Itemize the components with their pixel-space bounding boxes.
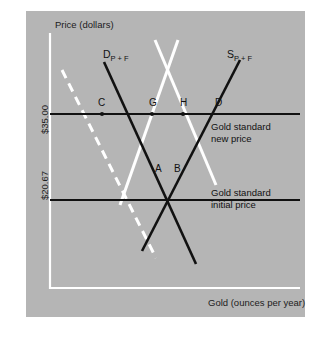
annotation-initial-price-line1: Gold standard [211, 187, 271, 199]
demand-curve-label: DP + F [103, 48, 129, 63]
annotation-new-price-line2: new price [211, 133, 271, 145]
point-marker-h [181, 112, 185, 116]
annotation-initial-price: Gold standardinitial price [211, 187, 271, 210]
point-marker-c [100, 112, 104, 116]
figure-container: Price (dollars) Gold (ounces per year) $… [0, 0, 330, 339]
point-marker-g [150, 112, 154, 116]
supply-curve-label: SP + F [227, 48, 252, 63]
annotation-initial-price-line2: initial price [211, 199, 271, 211]
annotation-new-price-line1: Gold standard [211, 121, 271, 133]
curve-white-demand-shift [155, 40, 216, 185]
curve-supply-pf [142, 60, 240, 251]
x-axis-title: Gold (ounces per year) [208, 297, 305, 308]
curve-white-dashed-demand [62, 70, 156, 258]
curve-white-supply-shift [120, 40, 178, 205]
point-label-b: B [174, 163, 181, 174]
point-label-c: C [98, 97, 105, 108]
point-label-a: A [155, 163, 162, 174]
point-label-d: D [215, 97, 222, 108]
demand-label-base: D [103, 48, 111, 60]
y-tick-label-upper: $35.00 [39, 105, 50, 134]
y-tick-label-lower: $20.67 [39, 171, 50, 200]
supply-label-base: S [227, 48, 234, 60]
annotation-new-price: Gold standardnew price [211, 121, 271, 144]
axis-lines [50, 33, 300, 288]
point-label-h: H [180, 97, 187, 108]
chart-plot-area [0, 0, 330, 339]
y-axis-title: Price (dollars) [55, 19, 114, 30]
point-label-g: G [149, 97, 157, 108]
demand-label-subscript: P + F [111, 54, 129, 63]
supply-label-subscript: P + F [234, 54, 252, 63]
